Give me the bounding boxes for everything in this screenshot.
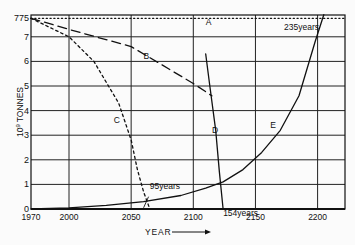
x-tick-label: 2100: [184, 212, 203, 222]
x-tick-labels: 197020002050210021502200: [22, 212, 328, 222]
x-tick-label: 1970: [22, 212, 41, 222]
annotation-c: C: [114, 115, 120, 125]
annotation-154years: 154years: [223, 208, 258, 218]
data-series: [31, 15, 345, 209]
annotation-95years: 95years: [150, 181, 180, 191]
annotation-b: B: [144, 51, 150, 61]
y-tick-label: 1: [24, 179, 29, 189]
axis-labels: 109TONNESYEAR: [15, 87, 211, 237]
arrow-head-icon: [205, 230, 211, 235]
x-tick-label: 2200: [308, 212, 327, 222]
x-axis-label: YEAR: [145, 227, 171, 237]
plot-frame: [31, 15, 345, 209]
annotation-a: A: [206, 17, 212, 27]
x-tick-label: 2000: [60, 212, 79, 222]
annotation-e: E: [270, 120, 276, 130]
y-axis-label: 109TONNES: [15, 87, 25, 137]
grid-lines: [31, 15, 345, 209]
chart: 01234567775 197020002050210021502200 ABC…: [0, 0, 355, 245]
series-b-line: [31, 18, 212, 96]
annotation-d: D: [212, 125, 218, 135]
annotations: ABCDE95years154years235years: [114, 17, 319, 218]
plot-border: [31, 15, 345, 209]
y-tick-label: 2: [24, 155, 29, 165]
y-tick-label: 7: [24, 32, 29, 42]
y-tick-label: 775: [14, 13, 29, 23]
y-tick-label: 6: [24, 56, 29, 66]
annotation-235years: 235years: [284, 22, 319, 32]
x-tick-label: 2050: [122, 212, 141, 222]
